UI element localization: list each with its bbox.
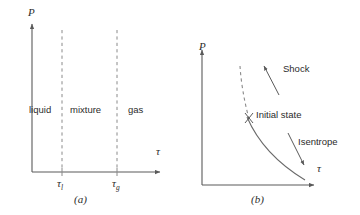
panel-a-phase-boundaries [62,30,117,168]
panel-b-caption: (b) [251,194,264,205]
shock-leader-arrow [264,66,279,95]
panel-a-axes [32,24,160,172]
panel-a-caption: (a) [74,194,87,205]
annotation-initial-state: Initial state [256,110,301,120]
region-label-gas: gas [128,105,143,115]
panel-b-x-axis-label: τ [317,163,321,174]
annotation-isentrope: Isentrope [298,137,338,147]
region-label-liquid: liquid [29,105,51,115]
tau-subscript-l: l [61,183,63,192]
panel-b-y-axis-label: P [199,41,206,52]
panel-a-y-axis-label: P [28,7,35,18]
annotation-shock: Shock [283,64,309,74]
region-label-mixture: mixture [70,105,101,115]
tau-subscript-g: g [116,183,120,192]
tick-label-tau-l: τl [57,178,63,189]
tick-label-tau-g: τg [112,178,120,189]
shock-branch-curve [240,66,249,119]
thermodynamics-figure: P τ liquid mixture gas τl τg (a) P τ Sho… [0,0,360,215]
figure-canvas [0,0,360,215]
panel-a-x-axis-label: τ [156,146,160,157]
